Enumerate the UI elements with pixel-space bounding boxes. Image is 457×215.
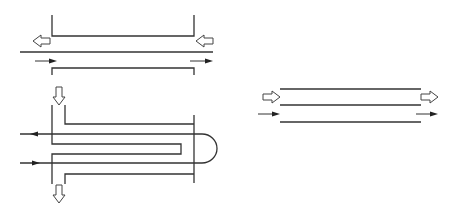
u-tube [20, 134, 217, 163]
inner-flow-out-arrow-icon [430, 112, 438, 117]
outer-shell-top [52, 15, 194, 36]
tube-inlet-arrow-icon [32, 161, 40, 166]
heat-exchanger-diagram [0, 0, 457, 215]
shell-top-wall [65, 105, 194, 124]
shell-inlet-arrow-icon [53, 87, 65, 105]
inner-flow-in-arrow-icon [272, 112, 280, 117]
shell-partition [52, 105, 181, 184]
outer-flow-out-arrow-icon [421, 91, 438, 103]
counter-flow-exchanger [20, 15, 213, 75]
shell-bottom-wall [65, 174, 194, 184]
outer-flow-out-arrow-icon [33, 35, 50, 47]
shell-outlet-arrow-icon [53, 185, 65, 203]
tube-outlet-arrow-icon [30, 132, 38, 137]
inner-flow-out-arrow-icon [205, 59, 213, 64]
outer-flow-in-arrow-icon [263, 91, 280, 103]
inner-flow-in-arrow-icon [49, 59, 57, 64]
outer-flow-in-arrow-icon [196, 35, 213, 47]
outer-shell-bottom [52, 68, 194, 75]
u-tube-exchanger [20, 87, 217, 203]
parallel-flow-exchanger [258, 89, 438, 122]
